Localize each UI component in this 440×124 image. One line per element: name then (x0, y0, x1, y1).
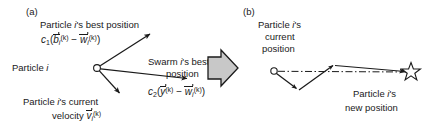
pso-velocity-diagram: (a) Particle i's best position c1(bi(k) … (0, 0, 440, 124)
particle-origin-marker (94, 65, 101, 72)
trajectory-segment-1 (277, 74, 297, 89)
transition-block-arrow-icon (208, 50, 238, 86)
velocity-vector-arrow (99, 71, 119, 93)
cognitive-vector-arrow (100, 34, 150, 66)
new-position-star-icon (402, 63, 421, 81)
trajectory-segment-3 (335, 66, 405, 72)
diagram-graphics (0, 0, 440, 124)
trajectory-segment-2 (299, 66, 333, 91)
social-vector-arrow (101, 69, 187, 79)
current-position-marker (271, 68, 277, 74)
reference-dash-dot-line (278, 71, 409, 72)
